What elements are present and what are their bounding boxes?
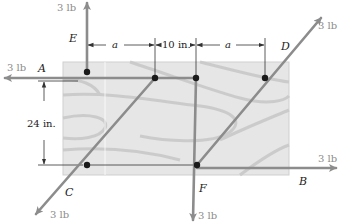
label-b: B <box>298 175 307 188</box>
pin-d <box>262 75 268 81</box>
dim-label-10in: 10 in. <box>162 39 191 50</box>
label-a: A <box>37 62 46 75</box>
force-label-f: 3 lb <box>198 210 217 221</box>
dim-label-24in: 24 in. <box>27 118 56 129</box>
label-f: F <box>198 182 207 195</box>
force-label-c: 3 lb <box>50 209 69 220</box>
pin-b <box>194 162 200 168</box>
force-diagram: A B C D E F 3 lb 3 lb 3 lb 3 lb 3 lb 3 l… <box>0 0 339 224</box>
force-label-d: 3 lb <box>318 20 337 31</box>
force-label-e: 3 lb <box>57 2 76 13</box>
label-c: C <box>65 186 74 199</box>
force-label-a: 3 lb <box>7 62 26 73</box>
pin-a <box>152 75 158 81</box>
dim-label-a-right: a <box>225 39 231 50</box>
pin-c <box>84 162 90 168</box>
force-label-b: 3 lb <box>318 153 337 164</box>
pin-e <box>84 69 90 75</box>
label-d: D <box>280 40 290 53</box>
label-e: E <box>68 32 77 45</box>
pin-f <box>193 75 199 81</box>
dim-label-a-left: a <box>112 39 118 50</box>
